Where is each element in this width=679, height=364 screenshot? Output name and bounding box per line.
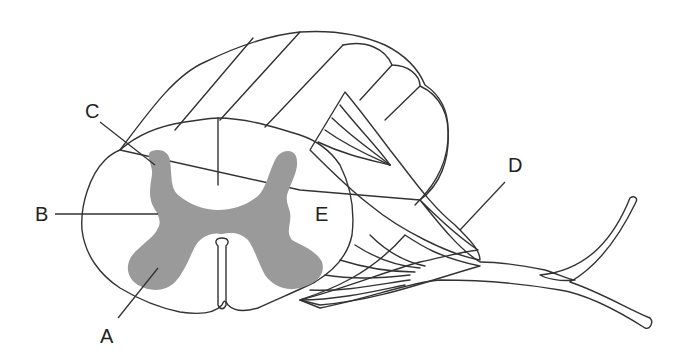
dorsal-fibre [340, 105, 390, 165]
segment-line-4 [360, 65, 392, 100]
central-canal [216, 238, 228, 309]
segment-outer-arc [343, 44, 448, 205]
dorsal-root [310, 92, 480, 260]
dorsal-fibre [325, 130, 390, 165]
ventral-root [300, 235, 480, 305]
label-D: D [460, 154, 522, 230]
ventral-fibre [370, 235, 425, 266]
segment-line-2 [220, 32, 300, 120]
segment-line-5 [385, 86, 420, 120]
label-B: B [35, 203, 158, 225]
label-text-D: D [508, 154, 522, 176]
dorsal-fibre [318, 142, 390, 165]
label-text-C: C [85, 100, 99, 122]
label-text-B: B [35, 203, 48, 225]
label-text-E: E [315, 203, 328, 225]
label-text-A: A [100, 325, 114, 347]
dorsal-root-outline [310, 92, 480, 260]
ventral-fibre [325, 275, 410, 278]
segment-line-1 [175, 38, 253, 130]
spinal-cord-diagram: C B A D E [0, 0, 679, 364]
leader-line-C [100, 122, 155, 165]
leader-line-D [460, 182, 505, 230]
label-E: E [315, 203, 328, 225]
